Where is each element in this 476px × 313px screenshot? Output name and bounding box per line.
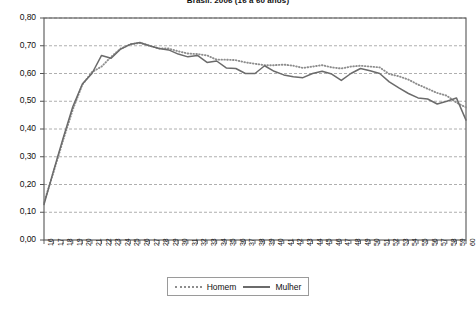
x-axis-label: 28: [162, 239, 169, 246]
x-axis-label: 38: [258, 239, 265, 246]
y-axis-label: 0,60: [2, 68, 36, 78]
x-axis-label: 25: [133, 239, 140, 246]
legend-line-solid-icon: [243, 286, 270, 288]
x-axis-label: 45: [325, 239, 332, 246]
x-axis-label: 24: [124, 239, 131, 246]
x-axis-label: 43: [306, 239, 313, 246]
legend-label-mulher: Mulher: [275, 282, 301, 292]
x-axis-label: 48: [354, 239, 361, 246]
x-axis-label: 56: [431, 239, 438, 246]
x-axis-label: 60: [469, 239, 476, 246]
y-axis-label: 0,80: [2, 12, 36, 22]
x-axis-label: 16: [47, 239, 54, 246]
x-axis-label: 40: [277, 239, 284, 246]
x-axis-label: 32: [200, 239, 207, 246]
y-axis-label: 0,50: [2, 95, 36, 105]
x-axis-label: 33: [210, 239, 217, 246]
legend-line-dotted-icon: [175, 286, 202, 288]
y-axis-label: 0,10: [2, 206, 36, 216]
x-axis-label: 41: [287, 239, 294, 246]
x-axis-label: 53: [402, 239, 409, 246]
x-axis-label: 22: [105, 239, 112, 246]
x-axis-label: 26: [143, 239, 150, 246]
x-axis-label: 44: [316, 239, 323, 246]
x-axis-label: 58: [450, 239, 457, 246]
y-axis-label: 0,70: [2, 40, 36, 50]
x-axis-label: 42: [296, 239, 303, 246]
x-axis-label: 54: [411, 239, 418, 246]
x-axis-label: 59: [459, 239, 466, 246]
x-axis-label: 31: [191, 239, 198, 246]
legend-item-mulher: Mulher: [243, 282, 301, 292]
chart-legend: Homem Mulher: [167, 277, 309, 296]
legend-label-homem: Homem: [207, 282, 237, 292]
x-axis-label: 30: [181, 239, 188, 246]
x-axis-label: 46: [335, 239, 342, 246]
y-axis-label: 0,20: [2, 179, 36, 189]
x-axis-label: 34: [220, 239, 227, 246]
x-axis-label: 52: [392, 239, 399, 246]
x-axis-label: 37: [248, 239, 255, 246]
chart-container: Brasil. 2006 (16 a 60 anos) 0,800,700,60…: [0, 0, 476, 313]
x-axis-label: 50: [373, 239, 380, 246]
x-axis-label: 18: [66, 239, 73, 246]
x-axis-label: 20: [85, 239, 92, 246]
x-axis-label: 49: [364, 239, 371, 246]
x-axis-label: 21: [95, 239, 102, 246]
y-axis-label: 0,30: [2, 151, 36, 161]
x-axis-label: 35: [229, 239, 236, 246]
x-axis-label: 17: [57, 239, 64, 246]
y-axis-label: 0,00: [2, 234, 36, 244]
x-axis-label: 47: [344, 239, 351, 246]
x-axis-label: 39: [268, 239, 275, 246]
series-line-mulher: [44, 42, 466, 204]
x-axis-label: 19: [76, 239, 83, 246]
legend-item-homem: Homem: [175, 282, 237, 292]
y-axis-label: 0,40: [2, 123, 36, 133]
x-axis-label: 55: [421, 239, 428, 246]
chart-plot-area: [0, 0, 476, 313]
x-axis-label: 51: [383, 239, 390, 246]
x-axis-label: 57: [440, 239, 447, 246]
x-axis-label: 23: [114, 239, 121, 246]
x-axis-label: 29: [172, 239, 179, 246]
x-axis-label: 27: [153, 239, 160, 246]
series-line-homem: [44, 43, 466, 203]
x-axis-label: 36: [239, 239, 246, 246]
